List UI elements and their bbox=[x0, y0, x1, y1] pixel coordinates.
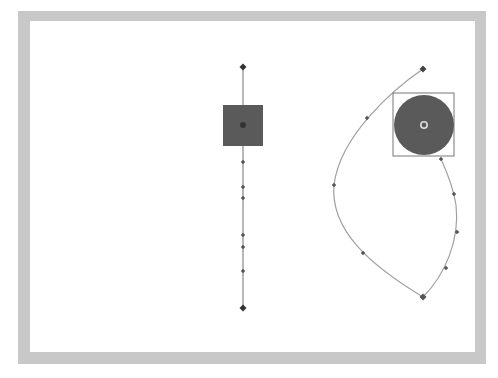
frame-dot-icon bbox=[439, 157, 443, 161]
linear-motion-path bbox=[223, 64, 263, 312]
frame-dot-icon bbox=[241, 160, 245, 164]
linear-start-keyframe-icon[interactable] bbox=[240, 64, 247, 71]
curved-motion-path bbox=[332, 66, 459, 301]
square-center-point bbox=[240, 122, 246, 128]
frame-dot-icon bbox=[241, 233, 245, 237]
curved-start-keyframe-icon[interactable] bbox=[420, 66, 427, 73]
linear-end-keyframe-icon[interactable] bbox=[240, 305, 247, 312]
motion-paths-layer bbox=[0, 0, 498, 378]
frame-dot-icon bbox=[241, 196, 245, 200]
tween-circle-object[interactable] bbox=[394, 95, 454, 155]
frame-dot-icon bbox=[241, 269, 245, 273]
frame-dot-icon bbox=[452, 192, 456, 196]
frame-dot-icon bbox=[332, 183, 336, 187]
frame-dot-icon bbox=[241, 185, 245, 189]
frame-dot-icon bbox=[241, 245, 245, 249]
